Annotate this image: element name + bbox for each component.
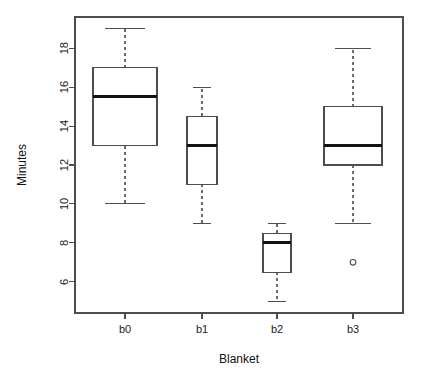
y-tick-label: 6 (58, 279, 70, 285)
y-tick-label: 14 (58, 120, 70, 132)
box-b1 (187, 87, 217, 223)
y-tick-label: 12 (58, 159, 70, 171)
boxplot-figure: 681012141618 b0b1b2b3 Minutes Blanket (0, 0, 423, 389)
y-tick-label: 10 (58, 198, 70, 210)
x-tick-label-b1: b1 (196, 323, 208, 335)
x-tick-label-b3: b3 (347, 323, 359, 335)
iqr-box-b1 (187, 116, 217, 184)
box-b2 (263, 223, 291, 301)
x-tick-label-b0: b0 (119, 323, 131, 335)
x-axis-title: Blanket (219, 352, 260, 366)
box-b0 (93, 29, 157, 204)
y-axis: 681012141618 (58, 42, 75, 285)
iqr-box-b3 (324, 107, 382, 165)
y-tick-label: 18 (58, 42, 70, 54)
outlier-b3-0 (350, 260, 356, 266)
box-b3 (324, 48, 382, 265)
y-tick-label: 8 (58, 240, 70, 246)
y-axis-title: Minutes (15, 144, 29, 186)
box-series (93, 29, 382, 302)
iqr-box-b0 (93, 68, 157, 146)
y-tick-label: 16 (58, 81, 70, 93)
boxplot-canvas: 681012141618 b0b1b2b3 Minutes Blanket (0, 0, 423, 389)
iqr-box-b2 (263, 233, 291, 272)
x-axis: b0b1b2b3 (119, 313, 359, 335)
x-tick-label-b2: b2 (271, 323, 283, 335)
